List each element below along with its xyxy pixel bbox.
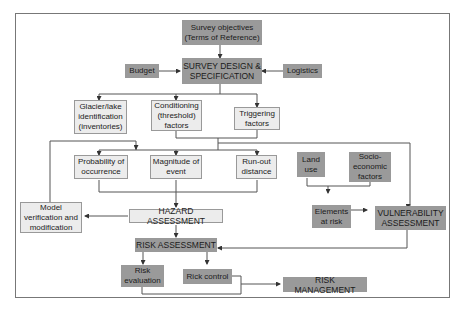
probability-node: Probability of occurrence [74, 155, 128, 179]
conditioning-node: Conditioning (threshold) factors [151, 100, 202, 131]
runout-node: Run-out distance [236, 155, 277, 179]
survey-design-node: SURVEY DESIGN & SPECIFICATION [182, 58, 262, 84]
logistics-node: Logistics [283, 64, 322, 78]
triggering-node: Triggering factors [234, 107, 280, 130]
risk-assessment-node: RISK ASSESSMENT [135, 238, 217, 252]
model-verification-node: Model verification and modification [20, 202, 82, 233]
risk-evaluation-node: Risk evaluation [121, 265, 164, 287]
land-use-node: Land use [297, 152, 325, 177]
risk-control-node: Rick control [183, 269, 232, 284]
elements-at-risk-node: Elements at risk [312, 205, 351, 228]
budget-node: Budget [125, 64, 159, 78]
hazard-assessment-node: HAZARD ASSESSMENT [129, 209, 223, 223]
vulnerability-node: VULNERABILITY ASSESSMENT [375, 206, 446, 230]
glacier-lake-node: Glacier/lake identification (inventories… [74, 100, 127, 134]
magnitude-node: Magnitude of event [150, 155, 202, 179]
socio-economic-node: Socio-economic factors [349, 152, 391, 182]
risk-management-node: RISK MANAGEMENT [283, 277, 367, 292]
survey-objectives-node: Survey objectives (Terms of Reference) [182, 20, 262, 45]
